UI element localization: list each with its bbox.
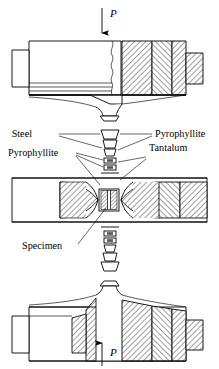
lower-steel-ring-2 <box>103 253 117 261</box>
label-specimen: Specimen <box>22 240 62 251</box>
bottom-anvil-nose <box>96 286 122 295</box>
top-hatch-block-a <box>122 41 152 95</box>
specimen-core <box>108 191 111 210</box>
lower-tantalum-core <box>107 239 113 242</box>
label-steel: Steel <box>12 128 33 139</box>
upper-steel-ring-1 <box>101 130 119 139</box>
load-label-top: P <box>109 7 117 19</box>
top-hatch-block-c <box>172 41 186 95</box>
figure-root: P <box>0 0 219 369</box>
bottom-hatch-block-c <box>172 309 186 361</box>
upper-pyrophyllite-core <box>107 166 113 169</box>
upper-tantalum-core <box>107 159 113 162</box>
lower-steel-ring-3 <box>104 245 116 252</box>
center-left-fill <box>60 182 86 218</box>
specimen-left-capsule <box>101 191 108 210</box>
leader-pyro-right-2 <box>118 136 152 150</box>
bottom-anvil-assembly <box>12 281 203 361</box>
top-taper-curve-right <box>122 95 186 104</box>
exploded-upper-stack <box>101 130 119 173</box>
lower-steel-ring-1 <box>101 262 119 271</box>
top-taper-left <box>29 95 122 104</box>
exploded-lower-stack <box>101 227 119 271</box>
bottom-taper-curve-left <box>29 295 96 305</box>
top-anvil-tip <box>100 116 119 121</box>
bottom-sleeve-inner-left <box>72 314 86 353</box>
anvil-cell-cross-section-diagram: P <box>0 0 219 369</box>
label-pyrophyllite-left: Pyrophyllite <box>8 147 59 158</box>
top-taper-curve-left <box>29 97 96 107</box>
top-left-block <box>12 50 29 87</box>
leader-tantalum-2 <box>120 159 146 180</box>
load-label-bottom: P <box>109 346 117 358</box>
top-anvil-assembly <box>12 41 203 121</box>
bottom-hatch-block-b <box>152 306 172 361</box>
center-die-body <box>12 178 207 222</box>
bottom-anvil-tip <box>100 281 119 286</box>
bottom-center-column <box>96 297 122 361</box>
upper-steel-ring-2 <box>103 140 117 148</box>
bottom-left-block <box>12 316 29 353</box>
lower-pyrophyllite-core <box>107 232 113 235</box>
center-hatch-band-b <box>159 182 180 218</box>
top-outer-stub <box>186 53 203 84</box>
top-hatch-block-b <box>152 41 172 95</box>
specimen-right-capsule <box>111 191 118 210</box>
upper-steel-ring-3 <box>104 149 116 156</box>
bottom-hatch-block-a <box>122 300 152 361</box>
bottom-outer-stub <box>186 320 203 350</box>
top-anvil-nose <box>96 104 122 116</box>
label-pyrophyllite-right: Pyrophyllite <box>155 128 206 139</box>
leader-steel-2 <box>59 136 102 148</box>
leader-tantalum-1 <box>118 157 146 162</box>
label-tantalum: Tantalum <box>149 142 187 153</box>
center-right-fill <box>133 182 159 218</box>
center-hatch-band-c <box>180 182 207 218</box>
top-load-arrow-group: P <box>102 7 117 33</box>
